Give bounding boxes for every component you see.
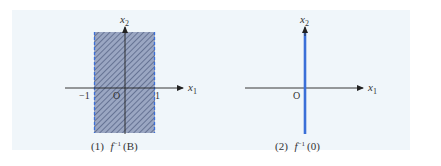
panel-1-diagram: x1 x2 O −1 1 (1) f−1(B): [65, 13, 197, 153]
origin-label: O: [113, 90, 120, 101]
panel-1-caption: (1) f−1(B): [91, 140, 138, 153]
origin-label: O: [293, 90, 300, 101]
figure-canvas: x1 x2 O −1 1 (1) f−1(B) x1 x2 O (2) f−1(…: [0, 0, 441, 166]
x2-axis-label: x2: [299, 13, 309, 28]
panel-2-diagram: x1 x2 O (2) f−1(0): [245, 13, 377, 153]
x1-axis-label: x1: [367, 81, 377, 96]
x1-axis-label: x1: [187, 81, 197, 96]
panel-2-caption: (2) f−1(0): [275, 140, 320, 153]
tick-pos-one: 1: [155, 90, 160, 101]
x2-axis-label: x2: [119, 13, 129, 28]
tick-neg-one: −1: [79, 90, 90, 101]
hatched-region: [94, 32, 155, 133]
